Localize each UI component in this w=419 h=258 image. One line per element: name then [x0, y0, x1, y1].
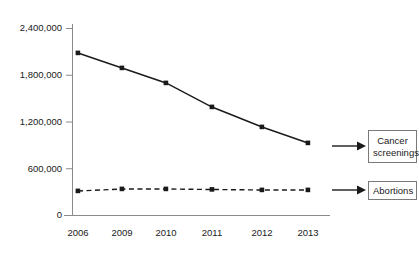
- x-tick-label-2013: 2013: [284, 228, 332, 238]
- callout-label-cancer-line1: Cancer: [373, 135, 412, 147]
- y-tick-label-0: 0: [0, 210, 62, 220]
- x-tick-label-2009: 2009: [98, 228, 146, 238]
- y-tick-label-2400000: 2,400,000: [0, 23, 62, 33]
- series-line-abortions: [78, 189, 308, 191]
- y-tick-label-600000: 600,000: [0, 164, 62, 174]
- callout-box-abortions: Abortions: [368, 181, 417, 200]
- x-tick-label-2011: 2011: [188, 228, 236, 238]
- x-tick-label-2010: 2010: [142, 228, 190, 238]
- callout-label-cancer-line2: screenings: [373, 147, 412, 159]
- chart-plot-area: [0, 0, 419, 258]
- x-tick-label-2006: 2006: [54, 228, 102, 238]
- callout-box-cancer-screenings: Cancer screenings: [368, 130, 417, 163]
- x-tick-label-2012: 2012: [238, 228, 286, 238]
- callout-arrow-cancer-screenings: [332, 142, 366, 151]
- chart-container: 2,400,000 1,800,000 1,200,000 600,000 0 …: [0, 0, 419, 258]
- callout-arrow-abortions: [332, 186, 366, 195]
- y-axis-ticks: [66, 29, 73, 216]
- y-tick-label-1800000: 1,800,000: [0, 70, 62, 80]
- series-line-cancer-screenings: [78, 53, 308, 143]
- callout-label-abortions: Abortions: [373, 185, 412, 197]
- y-tick-label-1200000: 1,200,000: [0, 117, 62, 127]
